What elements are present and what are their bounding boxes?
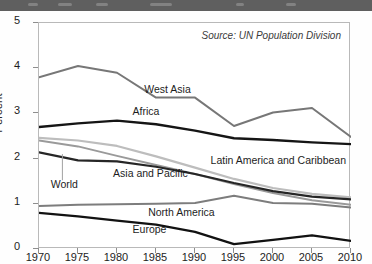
figure-page: Percent 012345 1970197519801985199019952…	[0, 0, 372, 264]
series-label-latin-america-and-caribbean: Latin America and Caribbean	[211, 154, 346, 166]
series-label-world: World	[51, 178, 78, 190]
y-tick-label-2: 2	[0, 150, 20, 162]
line-chart-figure: Percent 012345 1970197519801985199019952…	[0, 11, 372, 264]
y-tick-label-5: 5	[0, 14, 20, 26]
y-tick-label-1: 1	[0, 195, 20, 207]
series-label-north-america: North America	[148, 206, 215, 218]
series-line-west-asia	[39, 66, 351, 137]
series-label-africa: Africa	[133, 105, 160, 117]
series-line-latin-america-and-caribbean	[39, 138, 351, 198]
x-tick-label-2010: 2010	[320, 251, 372, 263]
source-annotation: Source: UN Population Division	[201, 30, 341, 41]
series-label-europe: Europe	[133, 223, 167, 235]
series-label-west-asia: West Asia	[144, 83, 191, 95]
y-tick-label-3: 3	[0, 104, 20, 116]
y-tick-label-4: 4	[0, 59, 20, 71]
series-label-asia-and-pacific: Asia and Pacific	[113, 167, 188, 179]
plot-area: Source: UN Population Division West Asia…	[38, 22, 350, 248]
